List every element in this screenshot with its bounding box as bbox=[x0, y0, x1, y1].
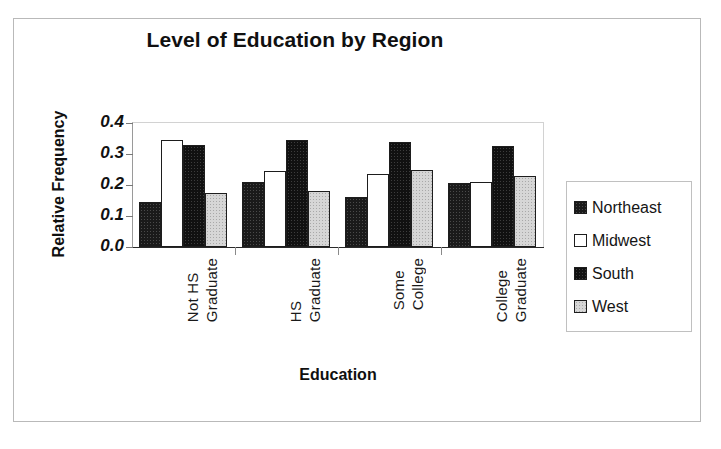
x-category-label-line: Graduate bbox=[306, 258, 323, 322]
x-tick-mark bbox=[338, 247, 339, 255]
bar-midwest-2 bbox=[367, 174, 389, 247]
x-category-label-line: HS bbox=[287, 258, 304, 322]
x-category-label-line: College bbox=[409, 258, 426, 310]
x-tick-mark bbox=[441, 247, 442, 255]
y-tick-label: 0.3 bbox=[78, 144, 124, 161]
y-tick-mark bbox=[126, 185, 133, 186]
bar-midwest-3 bbox=[470, 182, 492, 247]
legend-swatch-icon bbox=[574, 234, 587, 247]
bar-south-2 bbox=[389, 142, 411, 247]
bar-midwest-1 bbox=[264, 171, 286, 247]
x-category-label: SomeCollege bbox=[342, 258, 438, 363]
bar-northeast-3 bbox=[448, 183, 470, 247]
bar-west-1 bbox=[308, 191, 330, 247]
y-tick-mark bbox=[126, 154, 133, 155]
y-tick-label: 0.0 bbox=[78, 237, 124, 254]
legend-item-midwest[interactable]: Midwest bbox=[574, 224, 691, 257]
y-tick-mark bbox=[126, 123, 133, 124]
legend-item-northeast[interactable]: Northeast bbox=[574, 191, 691, 224]
legend-label: West bbox=[592, 298, 628, 316]
legend-label: Midwest bbox=[592, 232, 651, 250]
bar-west-0 bbox=[205, 193, 227, 247]
x-category-label-line: College bbox=[493, 258, 510, 322]
legend-swatch-icon bbox=[574, 267, 587, 280]
y-tick-label: 0.2 bbox=[78, 175, 124, 192]
y-tick-mark bbox=[126, 216, 133, 217]
chart-legend: NortheastMidwestSouthWest bbox=[566, 181, 692, 332]
bar-south-0 bbox=[183, 145, 205, 247]
bar-west-2 bbox=[411, 170, 433, 248]
bar-south-3 bbox=[492, 146, 514, 247]
y-tick-mark bbox=[126, 247, 133, 248]
x-category-label: CollegeGraduate bbox=[445, 258, 541, 363]
legend-label: Northeast bbox=[592, 199, 661, 217]
x-category-label: HSGraduate bbox=[239, 258, 335, 363]
y-tick-label: 0.1 bbox=[78, 206, 124, 223]
legend-swatch-icon bbox=[574, 201, 587, 214]
chart-screenshot: Level of Education by Region Relative Fr… bbox=[0, 0, 721, 449]
bar-northeast-1 bbox=[242, 182, 264, 247]
bar-midwest-0 bbox=[161, 140, 183, 247]
legend-label: South bbox=[592, 265, 634, 283]
x-category-label-line: Some bbox=[390, 258, 407, 310]
bar-northeast-2 bbox=[345, 197, 367, 247]
y-tick-label: 0.4 bbox=[78, 113, 124, 130]
legend-item-south[interactable]: South bbox=[574, 257, 691, 290]
x-axis-title: Education bbox=[132, 366, 544, 384]
y-axis-title: Relative Frequency bbox=[50, 89, 68, 279]
x-category-label: Not HSGraduate bbox=[136, 258, 232, 363]
x-category-label-line: Not HS bbox=[184, 258, 201, 322]
x-category-label-line: Graduate bbox=[203, 258, 220, 322]
legend-item-west[interactable]: West bbox=[574, 290, 691, 323]
legend-swatch-icon bbox=[574, 300, 587, 313]
chart-title: Level of Education by Region bbox=[60, 28, 530, 52]
bar-northeast-0 bbox=[139, 202, 161, 247]
bar-west-3 bbox=[514, 176, 536, 247]
x-tick-mark bbox=[235, 247, 236, 255]
y-axis-tick-labels: 0.00.10.20.30.4 bbox=[68, 0, 124, 449]
x-category-label-line: Graduate bbox=[512, 258, 529, 322]
bar-south-1 bbox=[286, 140, 308, 247]
